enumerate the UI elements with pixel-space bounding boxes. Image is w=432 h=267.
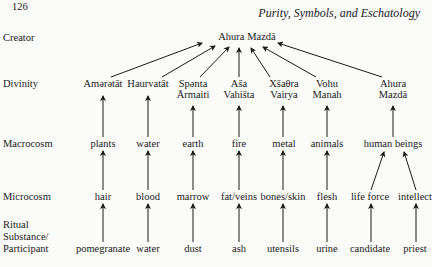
arrow-amaretat-creator (111, 43, 202, 77)
